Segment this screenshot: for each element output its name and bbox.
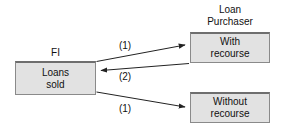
node-loans-sold-line1: Loans <box>42 67 69 79</box>
edge-fi-to-without-recourse <box>97 92 186 107</box>
node-with-recourse-line2: recourse <box>211 48 250 60</box>
node-loans-sold-line2: sold <box>46 79 64 91</box>
edge-with-recourse-to-fi <box>101 64 189 71</box>
edge-label-with-recourse-to-fi: (2) <box>113 71 137 82</box>
node-without-recourse-line1: Without <box>213 96 247 108</box>
node-loans-sold[interactable]: Loans sold <box>15 61 96 95</box>
node-without-recourse-line2: recourse <box>211 108 250 120</box>
loan-purchaser-caption: Loan Purchaser <box>185 4 275 28</box>
node-with-recourse[interactable]: With recourse <box>190 32 270 63</box>
fi-caption: FI <box>15 47 96 59</box>
edge-fi-to-with-recourse <box>97 45 186 62</box>
diagram-canvas: FI Loan Purchaser Loans sold With recour… <box>0 0 282 131</box>
loan-purchaser-caption-line2: Purchaser <box>185 16 275 28</box>
node-with-recourse-line1: With <box>220 36 240 48</box>
edge-label-fi-to-without-recourse: (1) <box>113 103 137 114</box>
node-without-recourse[interactable]: Without recourse <box>190 92 270 123</box>
fi-caption-text: FI <box>51 47 60 58</box>
edge-label-fi-to-with-recourse: (1) <box>113 40 137 51</box>
loan-purchaser-caption-line1: Loan <box>185 4 275 16</box>
